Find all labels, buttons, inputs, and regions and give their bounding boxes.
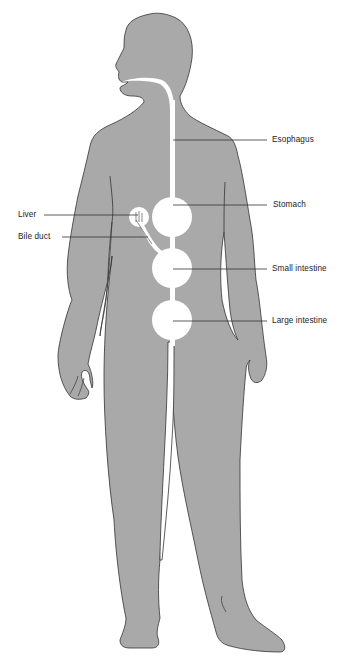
label-large-intestine: Large intestine [272,316,327,325]
stomach-organ [152,197,192,237]
label-stomach: Stomach [273,200,306,209]
large-intestine-organ [152,300,192,340]
label-small-intestine: Small intestine [272,264,327,273]
esophagus-tube [170,100,175,200]
human-body-figure [0,0,352,660]
rectum-tube [170,336,175,346]
label-liver: Liver [18,210,36,219]
small-intestine-organ [152,248,192,288]
label-bile-duct: Bile duct [18,232,50,241]
label-esophagus: Esophagus [272,135,314,144]
